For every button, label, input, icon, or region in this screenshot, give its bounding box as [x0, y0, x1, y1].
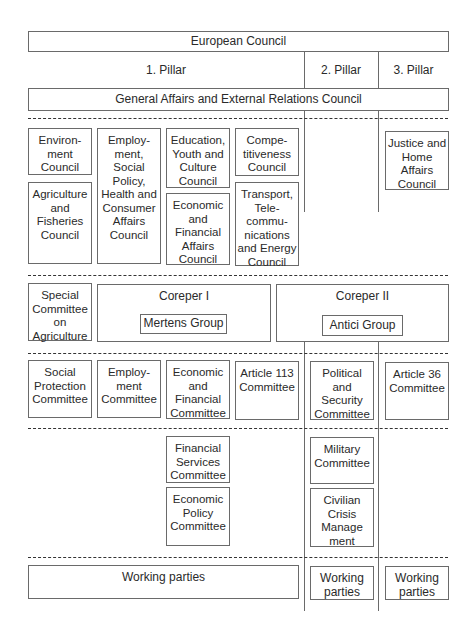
committee-political-security: Political and Security Committee	[310, 361, 374, 420]
committee-social-protection: Social Protection Committee	[28, 360, 92, 418]
pillar-2-label: 2. Pillar	[304, 63, 378, 77]
council-education-youth: Education, Youth and Culture Council	[166, 128, 230, 188]
level-divider-committees	[28, 353, 448, 354]
working-parties-pillar-1: Working parties	[28, 565, 299, 599]
working-parties-pillar-2: Working parties	[310, 566, 374, 600]
level-divider-subcommittees	[28, 428, 448, 429]
coreper-1-box: Coreper I Mertens Group	[97, 284, 271, 342]
pillar-1-label: 1. Pillar	[28, 63, 304, 77]
antici-group-label: Antici Group	[329, 319, 395, 333]
european-council-label: European Council	[191, 35, 286, 49]
committee-civilian-crisis: Civilian Crisis Manage ment	[310, 488, 374, 547]
pillar-divider-2-3-lower	[378, 341, 379, 611]
committee-article-36: Article 36 Committee	[385, 362, 449, 420]
committee-economic-financial: Economic and Financial Committee	[166, 360, 230, 419]
pillar-3-label: 3. Pillar	[378, 63, 449, 77]
council-ecofin: Economic and Financial Affairs Council	[166, 193, 230, 265]
coreper-1-label: Coreper I	[98, 290, 270, 304]
committee-article-113: Article 113 Committee	[235, 361, 299, 420]
committee-economic-policy: Economic Policy Committee	[166, 487, 230, 546]
committee-military: Military Committee	[310, 437, 374, 484]
mertens-group-box: Mertens Group	[140, 314, 227, 334]
antici-group-box: Antici Group	[322, 315, 403, 336]
working-parties-pillar-3: Working parties	[385, 566, 449, 600]
coreper-2-label: Coreper II	[277, 290, 448, 304]
council-transport-telecom-energy: Transport, Tele- commu- nications and En…	[235, 182, 299, 266]
council-justice-home-affairs: Justice and Home Affairs Council	[385, 131, 449, 190]
special-committee-agriculture: Special Committee on Agriculture	[28, 283, 92, 341]
level-divider-coreper	[28, 275, 448, 276]
council-agriculture-fisheries: Agriculture and Fisheries Council	[28, 182, 92, 264]
gaerc-box: General Affairs and External Relations C…	[28, 88, 449, 111]
level-divider-working-parties	[28, 557, 448, 558]
gaerc-label: General Affairs and External Relations C…	[115, 93, 362, 107]
council-environment: Environ- ment Council	[28, 128, 92, 175]
committee-employment: Employ- ment Committee	[97, 360, 161, 418]
council-employment-social: Employ- ment, Social Policy, Health and …	[97, 128, 161, 264]
pillar-divider-1-2-lower	[304, 341, 305, 611]
european-council-box: European Council	[28, 31, 449, 52]
level-divider-councils	[28, 118, 448, 119]
committee-financial-services: Financial Services Committee	[166, 436, 230, 483]
coreper-2-box: Coreper II Antici Group	[276, 284, 449, 342]
mertens-group-label: Mertens Group	[143, 317, 223, 331]
council-competitiveness: Compe- titiveness Council	[235, 128, 299, 176]
